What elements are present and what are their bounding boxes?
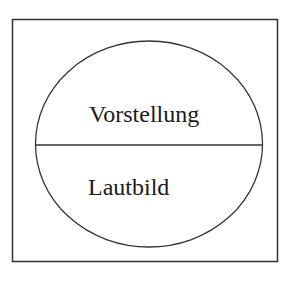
outer-frame	[13, 20, 278, 262]
signifier-label: Lautbild	[88, 174, 169, 200]
sign-ellipse	[36, 41, 263, 247]
signified-label: Vorstellung	[89, 101, 199, 127]
sign-diagram: Vorstellung Lautbild	[0, 0, 290, 281]
